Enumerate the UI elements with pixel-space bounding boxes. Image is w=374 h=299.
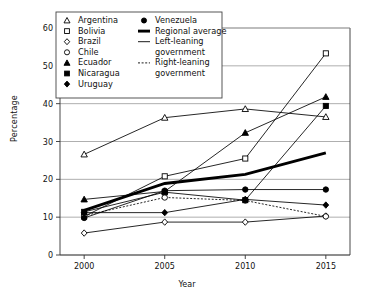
legend-label-brazil: Brazil bbox=[78, 36, 101, 46]
marker-open-circle bbox=[162, 195, 167, 200]
chart-plot-area: 01020304050602000200520102015ArgentinaBo… bbox=[0, 0, 374, 299]
series-brazil bbox=[81, 213, 328, 236]
marker-open-square bbox=[243, 156, 248, 161]
legend-label-left-leaning: Left-leaning bbox=[155, 36, 204, 46]
legend-label-nicaragua: Nicaragua bbox=[78, 68, 120, 78]
x-tick-label-2015: 2015 bbox=[316, 262, 336, 271]
series-line bbox=[84, 153, 326, 211]
legend-label-venezuela: Venezuela bbox=[155, 15, 197, 25]
marker-filled-diamond bbox=[323, 202, 329, 208]
marker-open-diamond bbox=[242, 219, 248, 225]
marker-filled-square bbox=[323, 103, 328, 108]
legend-label-argentina: Argentina bbox=[78, 15, 118, 25]
legend-label-right-leaning-line2: government bbox=[155, 68, 206, 78]
series-line bbox=[84, 190, 326, 218]
series-line bbox=[84, 197, 326, 216]
y-tick-label-30: 30 bbox=[43, 138, 53, 147]
legend-label-bolivia: Bolivia bbox=[78, 26, 105, 36]
marker-open-square bbox=[323, 51, 328, 56]
marker-filled-circle bbox=[141, 18, 146, 23]
x-tick-label-2000: 2000 bbox=[74, 262, 94, 271]
chart-container: Percentage Year 010203040506020002005201… bbox=[0, 0, 374, 299]
marker-filled-diamond bbox=[162, 209, 168, 215]
marker-open-triangle bbox=[81, 151, 87, 157]
y-tick-label-20: 20 bbox=[43, 175, 53, 184]
marker-open-diamond bbox=[81, 230, 87, 236]
legend-label-right-leaning: Right-leaning bbox=[155, 57, 210, 67]
legend-label-chile: Chile bbox=[78, 47, 99, 57]
legend-label-left-leaning-line2: government bbox=[155, 47, 206, 57]
y-tick-label-60: 60 bbox=[43, 24, 53, 33]
marker-filled-triangle bbox=[242, 130, 248, 136]
marker-open-square bbox=[162, 174, 167, 179]
y-tick-label-10: 10 bbox=[43, 213, 53, 222]
x-tick-label-2010: 2010 bbox=[235, 262, 255, 271]
legend-label-regional-average: Regional average bbox=[155, 26, 226, 36]
legend-label-ecuador: Ecuador bbox=[78, 57, 112, 67]
y-tick-label-50: 50 bbox=[43, 62, 53, 71]
marker-open-triangle bbox=[242, 106, 248, 112]
legend-label-uruguay: Uruguay bbox=[78, 79, 113, 89]
marker-open-diamond bbox=[162, 219, 168, 225]
marker-filled-circle bbox=[243, 187, 248, 192]
marker-open-circle bbox=[64, 50, 69, 55]
series-line bbox=[84, 216, 326, 233]
series-line bbox=[84, 109, 326, 154]
marker-filled-square bbox=[65, 71, 70, 76]
x-tick-label-2005: 2005 bbox=[155, 262, 175, 271]
y-tick-label-0: 0 bbox=[48, 251, 53, 260]
y-tick-label-40: 40 bbox=[43, 100, 53, 109]
chart-legend: ArgentinaBoliviaBrazilChileEcuadorNicara… bbox=[56, 12, 226, 98]
marker-filled-circle bbox=[162, 188, 167, 193]
series-regional-average bbox=[84, 153, 326, 211]
series-argentina bbox=[81, 106, 329, 157]
marker-filled-circle bbox=[323, 187, 328, 192]
marker-filled-circle bbox=[81, 215, 86, 220]
series-ecuador bbox=[81, 94, 329, 202]
marker-filled-triangle bbox=[323, 94, 329, 100]
marker-open-circle bbox=[323, 214, 328, 219]
marker-open-square bbox=[65, 29, 70, 34]
